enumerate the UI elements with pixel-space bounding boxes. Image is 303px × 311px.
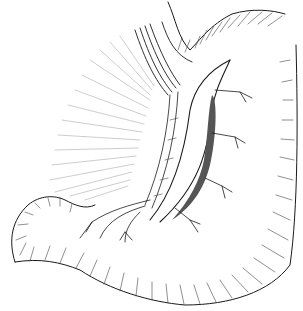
incision-strip bbox=[150, 60, 230, 222]
left-gastric-vessels bbox=[145, 92, 178, 208]
stomach-outer-contour bbox=[12, 2, 297, 305]
radiating-lines bbox=[50, 36, 154, 200]
anatomical-illustration bbox=[0, 0, 303, 311]
greater-curvature-hatching bbox=[16, 60, 294, 304]
incision-shadow bbox=[172, 95, 216, 220]
vessel-bundle bbox=[135, 22, 192, 95]
stomach-drawing bbox=[0, 0, 303, 311]
